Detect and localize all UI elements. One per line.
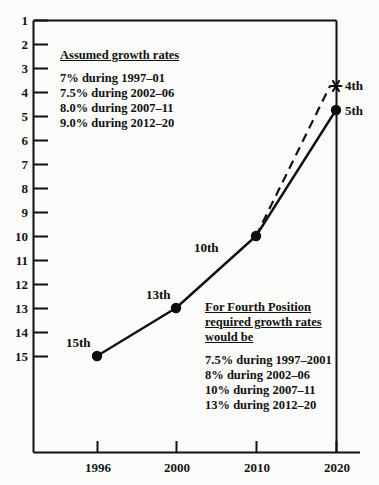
annotation-fourth-line-2: 8% during 2002–06 <box>205 368 332 383</box>
x-tick-label-1996: 1996 <box>68 461 128 474</box>
y-axis-ticks <box>34 21 48 357</box>
y-tick-label-13: 13 <box>2 302 28 315</box>
marker-2020-rank5 <box>331 105 341 115</box>
point-label-4th: 4th <box>345 79 363 92</box>
x-tick-label-2020: 2020 <box>307 461 367 474</box>
y-tick-label-8: 8 <box>2 182 28 195</box>
x-tick-label-2000: 2000 <box>147 461 207 474</box>
y-tick-label-6: 6 <box>2 134 28 147</box>
y-tick-label-9: 9 <box>2 206 28 219</box>
point-label-10th: 10th <box>194 241 219 254</box>
y-tick-label-12: 12 <box>2 278 28 291</box>
x-axis-ticks <box>98 441 337 452</box>
y-tick-label-2: 2 <box>2 38 28 51</box>
marker-2010-rank10 <box>251 231 261 241</box>
y-tick-label-11: 11 <box>2 254 28 267</box>
marker-2000-rank13 <box>171 303 181 313</box>
point-label-5th: 5th <box>345 104 363 117</box>
marker-1996-rank15 <box>92 351 102 361</box>
annotation-assumed-growth-rates: Assumed growth rates 7% during 1997–01 7… <box>60 48 179 131</box>
annotation-assumed-heading: Assumed growth rates <box>60 48 179 63</box>
annotation-fourth-heading-3: would be <box>205 330 332 345</box>
y-tick-label-3: 3 <box>2 62 28 75</box>
annotation-fourth-line-4: 13% during 2012–20 <box>205 398 332 413</box>
point-label-15th: 15th <box>66 336 91 349</box>
y-tick-label-14: 14 <box>2 326 28 339</box>
annotation-assumed-line-1: 7% during 1997–01 <box>60 71 179 86</box>
fourth-position-dashed-line <box>256 86 330 236</box>
y-tick-label-4: 4 <box>2 86 28 99</box>
x-tick-label-2010: 2010 <box>227 461 287 474</box>
y-tick-label-15: 15 <box>2 350 28 363</box>
annotation-assumed-line-2: 7.5% during 2002–06 <box>60 86 179 101</box>
annotation-assumed-line-3: 8.0% during 2007–11 <box>60 101 179 116</box>
y-tick-label-5: 5 <box>2 110 28 123</box>
annotation-assumed-spacer <box>60 63 179 71</box>
annotation-fourth-heading-1: For Fourth Position <box>205 300 332 315</box>
annotation-fourth-line-1: 7.5% during 1997–2001 <box>205 353 332 368</box>
chart-page: 1 2 3 4 5 6 7 8 9 10 11 12 13 14 15 1996… <box>0 0 379 485</box>
y-tick-label-1: 1 <box>2 14 28 27</box>
annotation-assumed-line-4: 9.0% during 2012–20 <box>60 116 179 131</box>
annotation-fourth-heading-2: required growth rates <box>205 315 332 330</box>
annotation-fourth-spacer <box>205 345 332 353</box>
point-label-13th: 13th <box>146 288 171 301</box>
y-tick-label-10: 10 <box>2 230 28 243</box>
annotation-fourth-line-3: 10% during 2007–11 <box>205 383 332 398</box>
y-tick-label-7: 7 <box>2 158 28 171</box>
annotation-fourth-position: For Fourth Position required growth rate… <box>205 300 332 413</box>
